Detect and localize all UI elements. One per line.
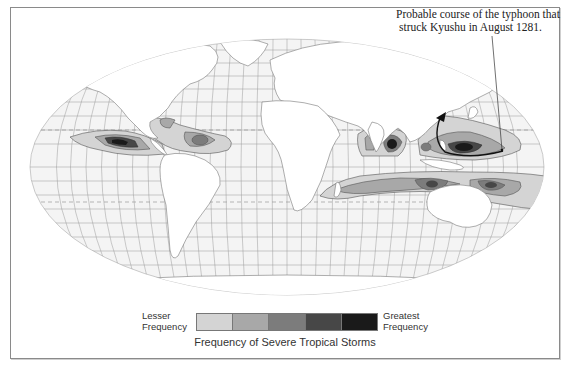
legend-greatest-line1: Greatest [383,311,428,322]
legend-title: Frequency of Severe Tropical Storms [0,336,570,348]
legend-swatch-1 [197,314,233,330]
legend-swatch-3 [269,314,305,330]
legend-greatest-label: Greatest Frequency [383,311,428,332]
legend-swatch-4 [306,314,342,330]
legend-lesser-label: Lesser Frequency [142,311,187,332]
typhoon-annotation: Probable course of the typhoon that stru… [396,8,566,34]
legend-lesser-line2: Frequency [142,322,187,333]
antarctica [100,275,474,300]
legend-swatch-2 [233,314,269,330]
annotation-line-1: Probable course of the typhoon that [396,8,560,20]
world-storm-map [0,0,570,366]
legend-color-scale [196,313,378,331]
legend-lesser-line1: Lesser [142,311,187,322]
legend-greatest-line2: Frequency [383,322,428,333]
legend-swatch-5 [342,314,377,330]
annotation-line-2: struck Kyushu in August 1281. [396,21,566,34]
